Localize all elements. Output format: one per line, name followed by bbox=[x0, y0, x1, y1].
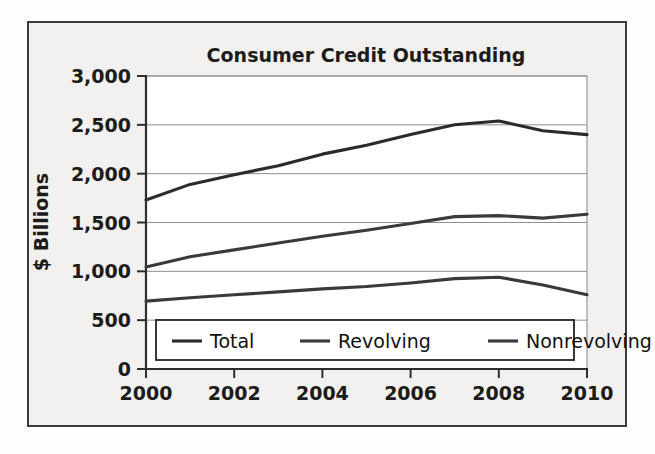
y-axis-title: $ Billions bbox=[30, 173, 52, 271]
y-tick-label: 2,500 bbox=[71, 114, 131, 136]
x-tick-label: 2000 bbox=[120, 382, 173, 404]
legend-label-total[interactable]: Total bbox=[209, 330, 254, 352]
x-tick-label: 2002 bbox=[208, 382, 261, 404]
y-tick-label: 500 bbox=[91, 309, 131, 331]
x-axis-tick-marks bbox=[146, 369, 587, 378]
y-axis-tick-labels: 05001,0001,5002,0002,5003,000 bbox=[71, 65, 131, 380]
y-axis-tick-marks bbox=[137, 76, 146, 369]
x-tick-label: 2008 bbox=[472, 382, 525, 404]
figure-container: 05001,0001,5002,0002,5003,000 2000200220… bbox=[0, 0, 655, 454]
y-tick-label: 1,000 bbox=[71, 260, 131, 282]
x-tick-label: 2010 bbox=[561, 382, 614, 404]
x-axis-tick-labels: 200020022004200620082010 bbox=[120, 382, 614, 404]
y-tick-label: 3,000 bbox=[71, 65, 131, 87]
y-tick-label: 0 bbox=[118, 358, 131, 380]
x-tick-label: 2006 bbox=[384, 382, 437, 404]
x-tick-label: 2004 bbox=[296, 382, 349, 404]
legend-label-nonrevolving[interactable]: Nonrevolving bbox=[526, 330, 652, 352]
chart-title: Consumer Credit Outstanding bbox=[207, 44, 526, 66]
y-tick-label: 2,000 bbox=[71, 163, 131, 185]
legend-label-revolving[interactable]: Revolving bbox=[338, 330, 431, 352]
y-tick-label: 1,500 bbox=[71, 212, 131, 234]
line-chart: 05001,0001,5002,0002,5003,000 2000200220… bbox=[0, 0, 655, 454]
legend-items: TotalRevolvingNonrevolving bbox=[172, 330, 652, 352]
